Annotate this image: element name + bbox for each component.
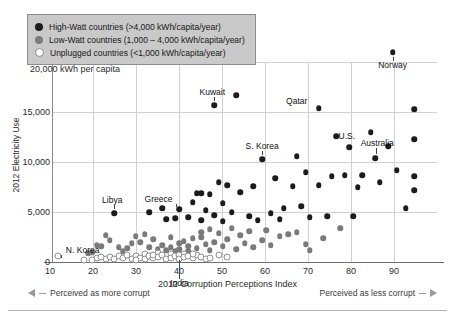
point-label: Libya — [102, 195, 122, 205]
data-point — [307, 247, 313, 253]
x-tick-60: 60 — [260, 266, 270, 276]
hollow-circle-icon — [35, 48, 44, 57]
data-point — [329, 173, 335, 179]
point-label: India — [170, 278, 188, 288]
data-point — [342, 172, 348, 178]
leader-line — [376, 148, 377, 154]
legend-label-unplugged: Unplugged countries (<1,000 kWh/capita/y… — [50, 48, 226, 58]
data-point — [185, 214, 191, 220]
data-point — [233, 246, 239, 252]
data-point — [198, 234, 204, 240]
data-point — [403, 205, 409, 211]
data-point — [412, 173, 418, 179]
data-point — [299, 203, 305, 209]
x-tick-80: 80 — [346, 266, 356, 276]
legend-label-high-watt: High-Watt countries (>4,000 kWh/capita/y… — [49, 22, 221, 32]
x-tick-20: 20 — [88, 266, 98, 276]
x-tick-70: 70 — [303, 266, 313, 276]
legend-item-unplugged[interactable]: Unplugged countries (<1,000 kWh/capita/y… — [35, 46, 245, 59]
data-point — [272, 175, 278, 181]
data-point — [194, 190, 200, 196]
data-point — [111, 210, 117, 216]
dash-icon — [419, 293, 426, 294]
data-point — [320, 235, 326, 241]
data-point — [242, 240, 248, 246]
data-point — [351, 213, 357, 219]
leader-line — [179, 260, 180, 279]
data-point — [146, 244, 152, 250]
point-label: Kuwait — [199, 87, 225, 97]
data-point — [194, 245, 200, 251]
data-point — [168, 234, 174, 240]
x-tick-90: 90 — [389, 266, 399, 276]
data-point — [216, 230, 222, 236]
legend-label-low-watt: Low-Watt countries (1,000 – 4,000 kWh/ca… — [49, 35, 245, 45]
data-point — [146, 209, 152, 215]
data-point — [246, 213, 252, 219]
data-point — [107, 237, 113, 243]
data-point — [368, 129, 374, 135]
data-point — [198, 217, 204, 223]
data-point — [142, 231, 148, 237]
data-point — [89, 256, 96, 263]
y-tick-15000: 15,000 — [22, 107, 50, 117]
y-tick-10000: 10,000 — [22, 157, 50, 167]
filled-gray-circle-icon — [35, 36, 43, 44]
data-point — [259, 156, 265, 162]
data-point — [212, 102, 218, 108]
data-point — [225, 182, 231, 188]
data-point — [203, 207, 209, 213]
data-point — [150, 251, 157, 258]
data-point — [251, 183, 257, 189]
data-point — [207, 247, 213, 253]
data-point — [54, 253, 61, 260]
legend: High-Watt countries (>4,000 kWh/capita/y… — [27, 14, 256, 65]
data-point — [394, 167, 400, 173]
data-point — [207, 226, 213, 232]
point-label: Australia — [361, 138, 394, 148]
leader-line — [262, 151, 263, 155]
point-label: N. Korea — [66, 245, 100, 255]
data-point — [215, 252, 222, 259]
data-point — [224, 254, 231, 261]
data-point — [238, 189, 244, 195]
data-point — [190, 199, 196, 205]
data-point — [229, 225, 235, 231]
leader-line — [393, 57, 394, 61]
data-point — [316, 182, 322, 188]
data-point — [203, 241, 209, 247]
point-label: Qatar — [286, 96, 307, 106]
data-point — [246, 228, 252, 234]
data-point — [294, 153, 300, 159]
note-more-corrupt: Perceived as more corrupt — [28, 288, 150, 298]
point-label: -U.S. — [336, 131, 355, 141]
legend-item-low-watt[interactable]: Low-Watt countries (1,000 – 4,000 kWh/ca… — [35, 33, 245, 46]
legend-item-high-watt[interactable]: High-Watt countries (>4,000 kWh/capita/y… — [35, 20, 245, 33]
dash-icon — [39, 293, 46, 294]
data-point — [390, 49, 396, 55]
x-tick-30: 30 — [131, 266, 141, 276]
data-point — [255, 217, 261, 223]
data-point — [206, 255, 213, 262]
data-point — [212, 212, 218, 218]
data-point — [220, 200, 226, 206]
data-point — [251, 244, 257, 250]
data-point — [207, 191, 213, 197]
data-point — [238, 232, 244, 238]
point-label: Greece — [145, 194, 173, 204]
data-point — [177, 206, 183, 212]
data-point — [159, 205, 165, 211]
plot-area — [52, 62, 437, 262]
data-point — [359, 172, 365, 178]
data-point — [303, 241, 309, 247]
data-point — [355, 184, 361, 190]
data-point — [325, 213, 331, 219]
data-point — [229, 209, 235, 215]
leader-line — [214, 97, 215, 101]
data-point — [316, 105, 322, 111]
x-tick-10: 10 — [45, 266, 55, 276]
data-point — [80, 257, 87, 264]
data-point — [172, 215, 178, 221]
note-more-corrupt-label: Perceived as more corrupt — [50, 288, 150, 298]
data-point — [151, 236, 157, 242]
